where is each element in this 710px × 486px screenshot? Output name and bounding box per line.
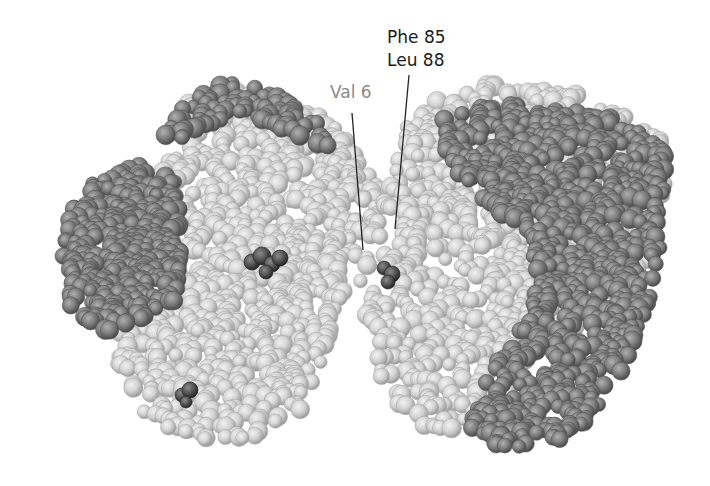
val6-label: Val 6 (330, 82, 372, 103)
phe85-leu88-label: Phe 85 Leu 88 (387, 27, 446, 73)
phe85-label: Phe 85 (387, 27, 446, 50)
atom-spheres (55, 76, 674, 454)
leu88-label: Leu 88 (387, 50, 446, 73)
protein-space-filling-model (0, 0, 710, 486)
